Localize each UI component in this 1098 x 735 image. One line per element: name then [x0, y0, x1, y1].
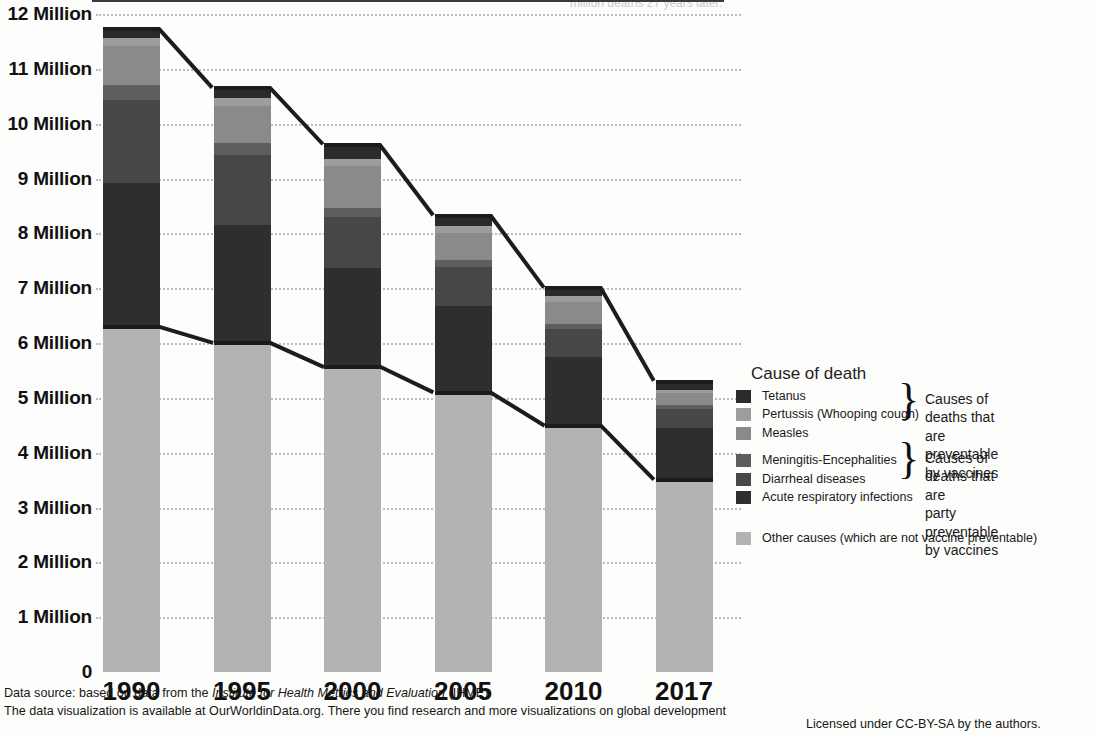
- other-causes-line-cap-2005: [435, 391, 492, 395]
- legend-item-meningitis-encephalities: Meningitis-Encephalities: [736, 454, 897, 468]
- gridline-3m: [96, 508, 741, 510]
- y-tick-label-12: 12 Million: [7, 3, 92, 25]
- gridline-8m: [96, 233, 741, 235]
- other-causes-line-cap-1995: [214, 341, 271, 345]
- bar-segment-1990-acute-respiratory-infections: [103, 183, 160, 327]
- y-tick-label-9: 9 Million: [18, 168, 92, 190]
- total-line-slope-1990-1995: [157, 27, 213, 89]
- total-line-cap-2005: [435, 214, 492, 218]
- other-causes-line-cap-1990: [103, 325, 160, 329]
- y-tick-label-4: 4 Million: [18, 442, 92, 464]
- bar-segment-2017-meningitis-encephalities: [656, 405, 713, 409]
- brace-lower-icon: }: [898, 437, 919, 481]
- total-line-cap-2017: [656, 380, 713, 384]
- gridline-7m: [96, 288, 741, 290]
- other-causes-line-slope-2000-2005: [379, 365, 434, 394]
- other-causes-line-cap-2017: [656, 478, 713, 482]
- gridline-6m: [96, 343, 741, 345]
- legend-label-measles: Measles: [762, 427, 809, 440]
- bar-2017: [656, 0, 713, 735]
- legend-label-acute-respiratory-infections: Acute respiratory infections: [762, 491, 913, 504]
- y-tick-label-7: 7 Million: [18, 277, 92, 299]
- bar-segment-2017-pertussis-whooping-cough: [656, 390, 713, 394]
- bar-segment-2017-measles: [656, 393, 713, 405]
- y-tick-label-5: 5 Million: [18, 387, 92, 409]
- legend-item-tetanus: Tetanus: [736, 389, 806, 403]
- bar-2010: [545, 0, 602, 735]
- chart-canvas: million deaths 27 years later. 12 Millio…: [0, 0, 1098, 735]
- bar-segment-2010-pertussis-whooping-cough: [545, 296, 602, 301]
- footer-license: Licensed under CC-BY-SA by the authors.: [806, 717, 1041, 731]
- legend-item-pertussis-whooping-cough: Pertussis (Whooping cough): [736, 408, 919, 422]
- other-causes-line-slope-1990-1995: [159, 325, 214, 345]
- other-causes-line-slope-2005-2010: [489, 391, 545, 427]
- footer-source-suffix: (IHME): [445, 686, 488, 700]
- bar-segment-2005-acute-respiratory-infections: [435, 306, 492, 393]
- brace-upper-icon: }: [898, 378, 919, 422]
- legend-item-other-causes: Other causes (which are not vaccine prev…: [736, 531, 1037, 545]
- total-line-cap-2000: [324, 143, 381, 147]
- legend-swatch-other-causes: [736, 532, 751, 545]
- gridline-1m: [96, 617, 741, 619]
- bar-segment-1990-other-causes-which-are-not-vaccine-preventable: [103, 327, 160, 672]
- bar-segment-2000-diarrheal-diseases: [324, 217, 381, 268]
- legend-label-meningitis-encephalities: Meningitis-Encephalities: [762, 454, 897, 467]
- bar-segment-2010-meningitis-encephalities: [545, 324, 602, 329]
- bar-segment-1995-other-causes-which-are-not-vaccine-preventable: [214, 343, 271, 672]
- y-tick-label-0: 0: [82, 661, 92, 683]
- y-tick-label-10: 10 Million: [7, 113, 92, 135]
- bar-segment-2000-tetanus: [324, 145, 381, 159]
- gridline-12m: [96, 14, 741, 16]
- bar-segment-1990-pertussis-whooping-cough: [103, 38, 160, 47]
- bar-2005: [435, 0, 492, 735]
- footer-source-institute: Institute for Health Metrics and Evaluat…: [212, 686, 445, 700]
- bar-segment-1995-measles: [214, 106, 271, 143]
- other-causes-line-cap-2010: [545, 424, 602, 428]
- legend-label-pertussis-whooping-cough: Pertussis (Whooping cough): [762, 408, 919, 421]
- bar-segment-1995-acute-respiratory-infections: [214, 225, 271, 343]
- footer-source-prefix: Data source: based on data from the: [4, 686, 212, 700]
- y-tick-label-2: 2 Million: [18, 551, 92, 573]
- bar-segment-2000-acute-respiratory-infections: [324, 268, 381, 367]
- total-line-cap-1995: [214, 86, 271, 90]
- footer-data-source: Data source: based on data from the Inst…: [4, 686, 488, 700]
- y-tick-label-6: 6 Million: [18, 332, 92, 354]
- gridline-2m: [96, 562, 741, 564]
- bar-segment-1995-pertussis-whooping-cough: [214, 98, 271, 106]
- bar-segment-2010-acute-respiratory-infections: [545, 357, 602, 426]
- gridline-10m: [96, 124, 741, 126]
- bar-segment-1995-meningitis-encephalities: [214, 143, 271, 155]
- other-causes-line-cap-2000: [324, 365, 381, 369]
- plot-area: million deaths 27 years later. 12 Millio…: [0, 0, 1098, 735]
- bar-1995: [214, 0, 271, 735]
- bar-segment-2000-other-causes-which-are-not-vaccine-preventable: [324, 367, 381, 672]
- bar-segment-2000-meningitis-encephalities: [324, 208, 381, 217]
- bar-segment-2010-diarrheal-diseases: [545, 329, 602, 356]
- bar-segment-2017-acute-respiratory-infections: [656, 428, 713, 480]
- legend-swatch-pertussis-whooping-cough: [736, 408, 751, 421]
- bar-segment-2005-other-causes-which-are-not-vaccine-preventable: [435, 393, 492, 672]
- x-tick-label-2010: 2010: [545, 676, 603, 707]
- legend-swatch-acute-respiratory-infections: [736, 491, 751, 504]
- gridline-9m: [96, 179, 741, 181]
- other-causes-line-slope-1995-2000: [269, 341, 324, 369]
- total-line-slope-1995-2000: [268, 86, 324, 146]
- total-line-slope-2010-2017: [599, 286, 656, 382]
- bar-segment-1990-meningitis-encephalities: [103, 85, 160, 99]
- legend-swatch-tetanus: [736, 390, 751, 403]
- legend-label-other-causes: Other causes (which are not vaccine prev…: [762, 532, 1037, 545]
- y-tick-label-11: 11 Million: [8, 58, 92, 80]
- gridline-4m: [96, 453, 741, 455]
- legend-item-acute-respiratory-infections: Acute respiratory infections: [736, 491, 913, 505]
- y-tick-label-3: 3 Million: [18, 497, 92, 519]
- total-line-cap-1990: [103, 27, 160, 31]
- footer-owid-note: The data visualization is available at O…: [4, 704, 726, 718]
- bar-segment-1990-diarrheal-diseases: [103, 100, 160, 183]
- legend-title: Cause of death: [751, 364, 866, 384]
- bar-segment-1990-measles: [103, 46, 160, 85]
- gridline-5m: [96, 398, 741, 400]
- bar-segment-2010-other-causes-which-are-not-vaccine-preventable: [545, 426, 602, 672]
- legend-swatch-diarrheal-diseases: [736, 473, 751, 486]
- bar-segment-2017-other-causes-which-are-not-vaccine-preventable: [656, 480, 713, 672]
- bar-segment-2005-pertussis-whooping-cough: [435, 226, 492, 233]
